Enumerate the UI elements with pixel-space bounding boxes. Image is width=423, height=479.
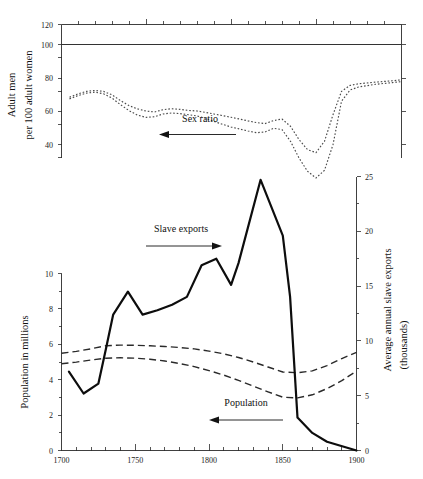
xtick-1900: 1900 [349, 456, 365, 465]
population-annotation: Population [209, 397, 283, 424]
bottom-left-ytick-10: 10 [45, 270, 53, 279]
bottom-panel-right-ticks [357, 177, 361, 451]
bottom-right-ytick-5: 5 [365, 392, 369, 401]
top-ytick-60: 60 [45, 107, 53, 116]
population-lower-curve [62, 358, 357, 398]
top-panel-ylabel-line1: Adult men [6, 72, 17, 117]
population-exports-panel: 10 8 6 4 2 0 25 20 15 10 5 0 1700 1750 1… [19, 173, 410, 466]
figure-container: 120 100 80 60 40 Adult men per 100 adult… [0, 0, 423, 479]
arrow-right-icon [212, 243, 222, 250]
xtick-1750: 1750 [127, 456, 143, 465]
chart-svg: 120 100 80 60 40 Adult men per 100 adult… [0, 0, 423, 479]
bottom-left-ytick-0: 0 [49, 447, 53, 456]
bottom-panel-right-axis-title-line1: Average annual slave exports [382, 248, 393, 371]
top-ytick-40: 40 [45, 141, 53, 150]
bottom-panel-right-axis-title-line2: (thousands) [398, 320, 410, 369]
bottom-right-ytick-15: 15 [365, 282, 373, 291]
bottom-right-ytick-0: 0 [365, 447, 369, 456]
bottom-panel-left-axis-title: Population in millions [19, 315, 30, 408]
top-panel-left-ticks [58, 25, 62, 158]
sex-ratio-lower-curve [70, 82, 402, 178]
xtick-1700: 1700 [54, 456, 70, 465]
bottom-left-ytick-8: 8 [49, 305, 53, 314]
slave-exports-annotation-label: Slave exports [154, 223, 208, 234]
sex-ratio-upper-curve [70, 80, 402, 153]
bottom-left-ytick-4: 4 [49, 376, 53, 385]
population-annotation-label: Population [224, 397, 267, 408]
slave-exports-annotation: Slave exports [146, 223, 222, 250]
arrow-left-icon-population [209, 417, 219, 424]
top-panel-top-minor-ticks [79, 19, 385, 25]
top-ytick-80: 80 [45, 74, 53, 83]
bottom-right-ytick-20: 20 [365, 227, 373, 236]
bottom-left-ytick-2: 2 [49, 411, 53, 420]
sex-ratio-panel: 120 100 80 60 40 Adult men per 100 adult… [6, 19, 406, 179]
bottom-right-ytick-25: 25 [365, 173, 373, 182]
top-ytick-120: 120 [41, 21, 53, 30]
xtick-1800: 1800 [201, 456, 217, 465]
top-ytick-100: 100 [41, 41, 53, 50]
bottom-panel-left-ticks [58, 274, 62, 451]
bottom-left-ytick-6: 6 [49, 340, 53, 349]
arrow-left-icon [159, 131, 169, 138]
slave-exports-curve [69, 180, 357, 451]
top-panel-ylabel-line2: per 100 adult women [23, 50, 34, 140]
sex-ratio-annotation-label: Sex ratio [182, 113, 218, 124]
bottom-panel-x-minor-ticks [76, 444, 342, 451]
bottom-right-ytick-10: 10 [365, 337, 373, 346]
top-panel-right-ticks [402, 25, 406, 145]
xtick-1850: 1850 [275, 456, 291, 465]
